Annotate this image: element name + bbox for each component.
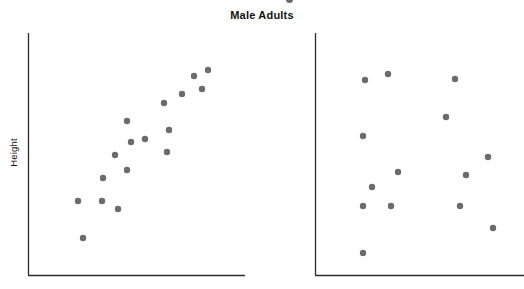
right-scatter-panel: Height bbox=[290, 0, 524, 289]
data-point bbox=[161, 100, 167, 106]
data-point bbox=[166, 127, 172, 133]
data-point bbox=[360, 203, 366, 209]
data-point bbox=[395, 169, 401, 175]
left-scatter-panel: Height bbox=[0, 0, 290, 289]
data-point bbox=[485, 154, 491, 160]
data-point bbox=[360, 133, 366, 139]
data-point bbox=[75, 198, 81, 204]
data-point bbox=[99, 198, 105, 204]
data-point bbox=[385, 71, 391, 77]
data-point bbox=[124, 167, 130, 173]
data-point bbox=[452, 76, 458, 82]
data-point bbox=[199, 86, 205, 92]
left-y-axis-label: Height bbox=[8, 132, 19, 174]
data-point bbox=[191, 73, 197, 79]
data-point bbox=[369, 184, 375, 190]
data-point bbox=[80, 235, 86, 241]
data-point bbox=[457, 203, 463, 209]
data-point bbox=[360, 250, 366, 256]
data-point bbox=[164, 149, 170, 155]
data-point bbox=[100, 175, 106, 181]
data-point bbox=[124, 118, 130, 124]
data-point bbox=[112, 152, 118, 158]
data-point bbox=[463, 172, 469, 178]
data-point bbox=[128, 139, 134, 145]
data-point bbox=[362, 77, 368, 83]
data-point bbox=[443, 114, 449, 120]
left-panel-axes bbox=[0, 0, 290, 289]
data-point bbox=[179, 91, 185, 97]
data-point bbox=[142, 136, 148, 142]
data-point bbox=[490, 225, 496, 231]
data-point bbox=[388, 203, 394, 209]
data-point bbox=[205, 67, 211, 73]
data-point bbox=[115, 206, 121, 212]
scatter-plot-figure: Male Adults Height Height bbox=[0, 0, 524, 289]
right-panel-axes bbox=[290, 0, 524, 289]
